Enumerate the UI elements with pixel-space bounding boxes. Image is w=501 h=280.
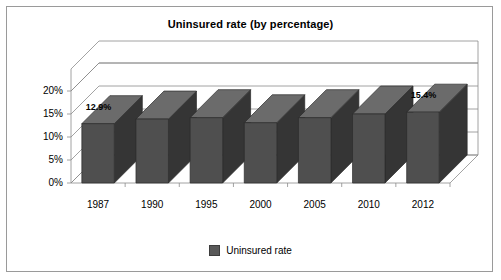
chart-canvas [7, 7, 494, 273]
chart-frame: Uninsured rate (by percentage) 0%5%10%15… [6, 6, 493, 272]
y-axis-tick-label: 5% [25, 154, 63, 165]
chart-legend: Uninsured rate [7, 245, 494, 256]
bar-value-label: 12.9% [86, 102, 112, 112]
x-axis-tick-label: 2005 [292, 199, 338, 210]
y-axis-tick-label: 10% [25, 131, 63, 142]
y-axis-tick-label: 20% [25, 85, 63, 96]
x-axis-tick-label: 1987 [75, 199, 121, 210]
legend-label-uninsured-rate: Uninsured rate [226, 245, 292, 256]
plot-area: 0%5%10%15%20% 19871990199520002005201020… [7, 7, 494, 273]
y-axis-tick-label: 0% [25, 177, 63, 188]
bar-value-label: 15.4% [411, 90, 437, 100]
y-axis-tick-label: 15% [25, 108, 63, 119]
x-axis-tick-label: 1990 [129, 199, 175, 210]
legend-swatch-uninsured-rate [209, 245, 220, 256]
x-axis-tick-label: 2000 [238, 199, 284, 210]
x-axis-tick-label: 2012 [400, 199, 446, 210]
x-axis-tick-label: 2010 [346, 199, 392, 210]
x-axis-tick-label: 1995 [183, 199, 229, 210]
